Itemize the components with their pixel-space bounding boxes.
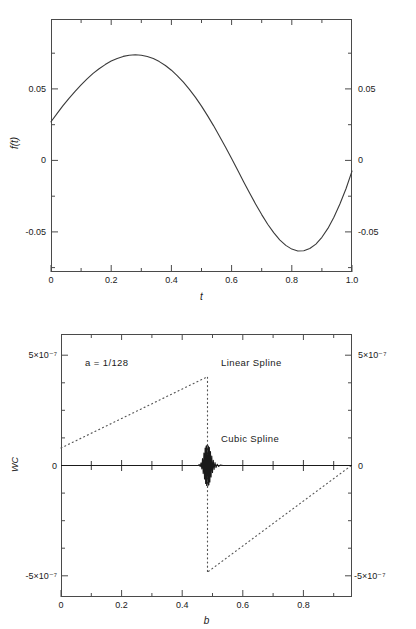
bottom-xtick-2: 0.4: [176, 601, 189, 610]
top-xtick-3: 0.6: [225, 276, 238, 285]
top-xaxis-minor-ticks: [81, 268, 322, 272]
top-xtick-5: 1.0: [346, 276, 359, 285]
bottom-yaxis-title: WC: [11, 457, 20, 472]
bottom-xtick-1: 0.2: [115, 601, 128, 610]
bottom-ytick-left-2: -5×10⁻⁷: [0, 571, 57, 580]
top-xtick-0: 0: [48, 276, 53, 285]
top-ticks: [51, 19, 352, 272]
top-yaxis-title: f(t): [10, 137, 20, 149]
top-ytick-right-1: 0: [358, 156, 363, 165]
bottom-ytick-right-2: -5×10⁻⁷: [354, 571, 386, 580]
series-f-of-t: [51, 55, 352, 251]
bottom-ytick-left-0: 5×10⁻⁷: [2, 351, 57, 360]
figure-root: 0 0.2 0.4 0.6 0.8 1.0 0.05 0 -0.05 0.05 …: [0, 0, 416, 629]
bottom-xaxis-minor-ticks: [91, 593, 333, 597]
bottom-xaxis-major-ticks: [61, 590, 303, 597]
top-xtick-2: 0.4: [165, 276, 178, 285]
bottom-xaxis-top-ticks: [91, 334, 333, 340]
top-yaxis-right-ticks: [345, 53, 352, 267]
series-cubic-spline: [61, 445, 352, 486]
bottom-plot-drawing: [0, 310, 416, 629]
annotation-cubic-spline: Cubic Spline: [221, 434, 279, 444]
top-yaxis-left-ticks: [51, 53, 58, 267]
annotation-linear-spline: Linear Spline: [221, 358, 282, 368]
top-ytick-right-2: -0.05: [358, 227, 379, 236]
top-xaxis-title: t: [200, 292, 203, 302]
top-ytick-right-0: 0.05: [358, 84, 376, 93]
bottom-xtick-0: 0: [58, 601, 63, 610]
top-xtick-4: 0.8: [286, 276, 299, 285]
top-xaxis-top-ticks: [81, 19, 322, 25]
bottom-xtick-4: 0.8: [297, 601, 310, 610]
bottom-ytick-right-1: 0: [358, 461, 363, 470]
annotation-param-a: a = 1/128: [85, 358, 128, 368]
panel-bottom: 0 0.2 0.4 0.6 0.8 5×10⁻⁷ 0 -5×10⁻⁷ 5×10⁻…: [0, 310, 416, 629]
top-plot-drawing: [0, 0, 416, 310]
bottom-ytick-right-0: 5×10⁻⁷: [358, 351, 387, 360]
bottom-xtick-3: 0.6: [237, 601, 250, 610]
top-xtick-1: 0.2: [105, 276, 118, 285]
top-ytick-left-0: 0.05: [16, 84, 46, 93]
top-ytick-left-2: -0.05: [12, 227, 46, 236]
top-ytick-left-1: 0: [16, 156, 46, 165]
bottom-xaxis-title: b: [204, 616, 210, 626]
panel-top: 0 0.2 0.4 0.6 0.8 1.0 0.05 0 -0.05 0.05 …: [0, 0, 416, 310]
